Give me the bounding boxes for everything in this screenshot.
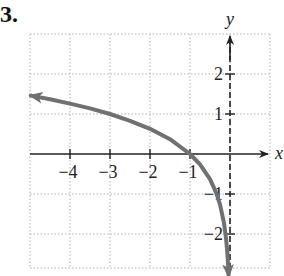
- y-tick-label: 2: [214, 64, 223, 84]
- axes: [30, 36, 268, 268]
- y-axis-label: y: [224, 9, 234, 29]
- curve-path: [31, 96, 229, 276]
- curve-log: [31, 96, 229, 276]
- x-tick-label: −1: [178, 162, 197, 182]
- x-tick-label: −2: [138, 162, 157, 182]
- tick-labels: −4−3−2−1−2−112xy: [58, 9, 283, 244]
- graph: 3. −4−3−2−1−2−112xy: [0, 0, 284, 276]
- y-tick-label: −2: [204, 224, 223, 244]
- x-axis-label: x: [274, 143, 283, 163]
- x-tick-label: −4: [58, 162, 77, 182]
- y-tick-label: 1: [214, 104, 223, 124]
- problem-number: 3.: [0, 1, 18, 27]
- x-tick-label: −3: [98, 162, 117, 182]
